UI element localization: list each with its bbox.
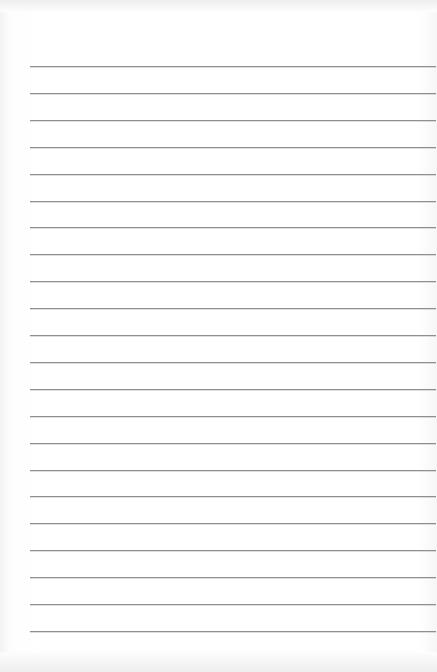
ruled-line: [30, 66, 436, 67]
ruled-line: [30, 335, 436, 336]
ruled-line: [30, 227, 436, 228]
ruled-line: [30, 174, 436, 175]
ruled-line: [30, 281, 436, 282]
ruled-line: [30, 443, 436, 444]
page-top-edge: [0, 0, 437, 12]
ruled-line: [30, 362, 436, 363]
ruled-line: [30, 631, 436, 632]
ruled-line: [30, 416, 436, 417]
ruled-line: [30, 254, 436, 255]
lined-paper-page: [0, 0, 437, 672]
ruled-line: [30, 523, 436, 524]
ruled-line: [30, 550, 436, 551]
ruled-line: [30, 120, 436, 121]
ruled-line: [30, 147, 436, 148]
ruled-line: [30, 93, 436, 94]
ruled-line: [30, 577, 436, 578]
ruled-line: [30, 201, 436, 202]
page-bottom-edge: [0, 652, 437, 672]
ruled-line: [30, 604, 436, 605]
ruled-line: [30, 389, 436, 390]
ruled-line: [30, 308, 436, 309]
ruled-line: [30, 496, 436, 497]
ruled-line: [30, 470, 436, 471]
